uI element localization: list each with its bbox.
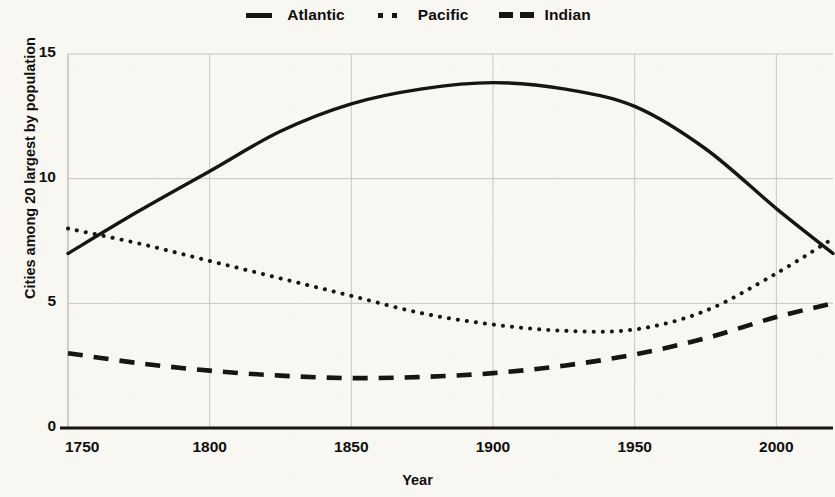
series-line-pacific: [68, 229, 833, 332]
y-tick-label: 0: [16, 417, 56, 435]
x-tick-label: 2000: [736, 438, 816, 456]
x-tick-label: 1950: [595, 438, 675, 456]
x-tick-label: 1900: [453, 438, 533, 456]
x-tick-label: 1850: [311, 438, 391, 456]
chart-figure: Atlantic Pacific Indian 0510151750180018…: [0, 0, 835, 497]
x-tick-label: 1750: [65, 438, 145, 456]
x-axis-title: Year: [0, 472, 835, 488]
gridlines: [68, 54, 833, 428]
data-series: [68, 83, 833, 379]
series-line-atlantic: [68, 83, 833, 254]
plot-area: [0, 0, 835, 497]
x-tick-label: 1800: [170, 438, 250, 456]
series-line-indian: [68, 303, 833, 378]
axis-lines: [60, 54, 833, 428]
y-axis-title: Cities among 20 largest by population: [22, 8, 38, 328]
